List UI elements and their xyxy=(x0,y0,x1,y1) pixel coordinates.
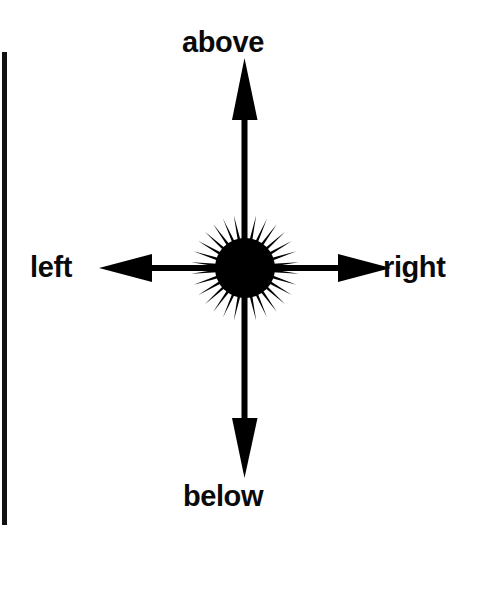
label-right: right xyxy=(383,253,445,282)
label-left: left xyxy=(30,253,72,282)
diagram-canvas: above below left right xyxy=(0,0,492,594)
label-below: below xyxy=(0,482,492,511)
label-above: above xyxy=(0,28,492,57)
